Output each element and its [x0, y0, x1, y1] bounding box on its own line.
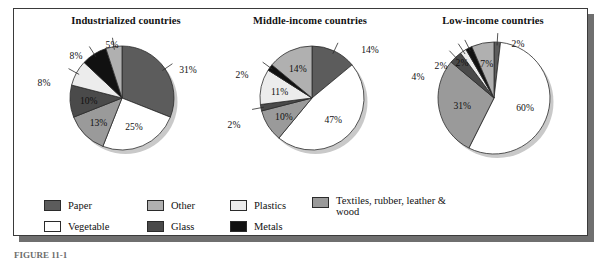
legend-swatch-icon — [312, 197, 329, 208]
slice-callout-label: 4% — [412, 71, 425, 82]
legend-column: PlasticsMetals — [230, 195, 286, 237]
slice-value-label: 47% — [325, 114, 343, 125]
slice-value-label: 7% — [480, 57, 493, 68]
legend-item: Vegetable — [44, 216, 109, 237]
pie-canvas: 31%25%13%10%8%8%5% — [36, 32, 216, 166]
chart-title: Middle-income countries — [220, 15, 400, 26]
legend-swatch-icon — [230, 200, 247, 211]
legend-label: Metals — [254, 221, 283, 232]
slice-value-label: 10% — [275, 110, 293, 121]
legend-label: Textiles, rubber, leather & wood — [336, 195, 454, 217]
legend-item: Plastics — [230, 195, 286, 216]
slice-callout-label: 2% — [236, 69, 249, 80]
legend-label: Glass — [171, 221, 194, 232]
slice-callout-label: 2% — [456, 57, 469, 68]
pie-svg — [36, 32, 216, 166]
slice-callout-label: 2% — [435, 60, 448, 71]
slice-value-label: 13% — [90, 116, 108, 127]
legend-label: Vegetable — [68, 221, 109, 232]
pie-chart-middle-income: Middle-income countries 14%47%10%2%11%2%… — [220, 15, 400, 166]
chart-title: Industrialized countries — [36, 15, 216, 26]
slice-value-label: 31% — [453, 99, 471, 110]
legend-label: Paper — [68, 200, 92, 211]
legend-item: Glass — [147, 216, 195, 237]
pie-svg — [400, 32, 586, 166]
legend-swatch-icon — [147, 221, 164, 232]
slice-callout-label: 31% — [179, 64, 197, 75]
pie-canvas: 14%47%10%2%11%2%14% — [220, 32, 400, 166]
pie-canvas: 2%60%31%4%2%2%7% — [400, 32, 586, 166]
chart-title: Low-income countries — [400, 15, 586, 26]
slice-value-label: 10% — [80, 95, 98, 106]
legend-label: Other — [171, 200, 195, 211]
slice-value-label: 60% — [516, 102, 534, 113]
slice-callout-label: 8% — [38, 77, 51, 88]
figure-root: Industrialized countries 31%25%13%10%8%8… — [0, 0, 602, 260]
legend-column: Textiles, rubber, leather & wood — [312, 195, 454, 229]
legend-swatch-icon — [44, 221, 61, 232]
slice-value-label: 11% — [271, 85, 288, 96]
figure-frame: Industrialized countries 31%25%13%10%8%8… — [13, 8, 588, 236]
slice-value-label: 14% — [289, 62, 307, 73]
slice-callout-label: 14% — [361, 44, 379, 55]
figure-caption: FIGURE 11-1 — [14, 250, 67, 260]
legend-column: PaperVegetable — [44, 195, 109, 237]
slice-callout-label: 2% — [512, 38, 525, 49]
legend-item: Paper — [44, 195, 109, 216]
legend-label: Plastics — [254, 200, 286, 211]
legend-item: Textiles, rubber, leather & wood — [312, 195, 454, 229]
slice-callout-label: 5% — [106, 39, 119, 50]
slice-callout-label: 2% — [228, 119, 241, 130]
pie-chart-industrialized: Industrialized countries 31%25%13%10%8%8… — [36, 15, 216, 166]
slice-callout-label: 8% — [70, 50, 83, 61]
chart-legend: PaperVegetable OtherGlass PlasticsMetals… — [40, 195, 570, 241]
legend-column: OtherGlass — [147, 195, 195, 237]
charts-row: Industrialized countries 31%25%13%10%8%8… — [14, 9, 587, 181]
legend-swatch-icon — [230, 221, 247, 232]
legend-item: Other — [147, 195, 195, 216]
slice-value-label: 25% — [125, 120, 143, 131]
legend-swatch-icon — [147, 200, 164, 211]
legend-item: Metals — [230, 216, 286, 237]
pie-chart-low-income: Low-income countries 2%60%31%4%2%2%7% — [400, 15, 586, 166]
legend-swatch-icon — [44, 200, 61, 211]
